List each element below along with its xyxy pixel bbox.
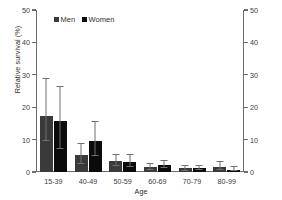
y-tick-label-left: 50 — [22, 6, 30, 15]
error-cap-bottom — [126, 166, 133, 167]
relative-survival-bar-chart: Relative survival (%) Age Men Women 0102… — [0, 0, 282, 200]
y-tick-label-left: 0 — [26, 168, 30, 177]
error-cap-top — [182, 165, 189, 166]
error-bar-men — [46, 79, 47, 141]
error-cap-bottom — [147, 169, 154, 170]
error-bar-women — [60, 87, 61, 149]
bar-wrap-women — [158, 165, 171, 172]
bar-wrap-men — [109, 161, 122, 172]
y-tick-label-right: 10 — [250, 135, 258, 144]
error-bar-women — [95, 122, 96, 155]
y-tick-right — [244, 74, 248, 75]
y-tick-right — [244, 9, 248, 10]
error-cap-top — [147, 163, 154, 164]
x-tick-label: 70-79 — [175, 177, 210, 186]
bar-wrap-women — [89, 141, 102, 172]
y-axis-title: Relative survival (%) — [13, 10, 22, 110]
error-cap-top — [196, 165, 203, 166]
y-tick-label-right: 40 — [250, 38, 258, 47]
bar-wrap-men — [75, 155, 88, 172]
bar-group: 50-59 — [105, 10, 140, 172]
error-cap-bottom — [92, 155, 99, 156]
error-cap-bottom — [57, 148, 64, 149]
error-cap-top — [43, 78, 50, 79]
error-cap-top — [78, 143, 85, 144]
bar-wrap-men — [179, 168, 192, 172]
bar-group: 15-39 — [36, 10, 71, 172]
error-cap-top — [126, 154, 133, 155]
bar-group: 80-99 — [209, 10, 244, 172]
error-cap-top — [230, 166, 237, 167]
x-tick-label: 80-99 — [209, 177, 244, 186]
bar-wrap-women — [123, 162, 136, 172]
bar-wrap-men — [40, 116, 53, 172]
error-cap-top — [161, 160, 168, 161]
plot-area: 01020304050 01020304050 15-3940-4950-596… — [36, 10, 244, 172]
bar-groups: 15-3940-4950-5960-6970-7980-99 — [36, 10, 244, 172]
y-tick-label-left: 40 — [22, 38, 30, 47]
y-tick-label-right: 0 — [250, 168, 254, 177]
y-tick-label-left: 10 — [22, 135, 30, 144]
error-cap-top — [57, 86, 64, 87]
y-tick-right — [244, 107, 248, 108]
x-tick-label: 15-39 — [36, 177, 71, 186]
error-cap-bottom — [216, 169, 223, 170]
y-tick-right — [244, 139, 248, 140]
bar-wrap-women — [54, 121, 67, 172]
y-tick-label-right: 20 — [250, 103, 258, 112]
bar-group: 40-49 — [71, 10, 106, 172]
bar-wrap-women — [227, 170, 240, 172]
x-tick-label: 40-49 — [71, 177, 106, 186]
bar-wrap-men — [213, 167, 226, 172]
bar-wrap-women — [193, 168, 206, 172]
error-cap-bottom — [182, 170, 189, 171]
y-tick-label-left: 20 — [22, 103, 30, 112]
x-axis-title: Age — [0, 187, 282, 196]
y-tick-label-right: 30 — [250, 70, 258, 79]
error-cap-top — [216, 161, 223, 162]
y-tick-right — [244, 42, 248, 43]
x-tick-label: 60-69 — [140, 177, 175, 186]
y-tick-right — [244, 171, 248, 172]
error-cap-bottom — [230, 170, 237, 171]
error-cap-bottom — [78, 163, 85, 164]
error-cap-top — [112, 154, 119, 155]
bar-group: 60-69 — [140, 10, 175, 172]
bar-wrap-men — [144, 167, 157, 172]
y-tick-label-left: 30 — [22, 70, 30, 79]
error-cap-bottom — [161, 167, 168, 168]
y-tick-label-right: 50 — [250, 6, 258, 15]
bar-group: 70-79 — [175, 10, 210, 172]
error-cap-bottom — [112, 165, 119, 166]
x-tick-label: 50-59 — [105, 177, 140, 186]
error-cap-top — [92, 121, 99, 122]
error-bar-men — [81, 144, 82, 164]
error-cap-bottom — [196, 169, 203, 170]
error-cap-bottom — [43, 140, 50, 141]
